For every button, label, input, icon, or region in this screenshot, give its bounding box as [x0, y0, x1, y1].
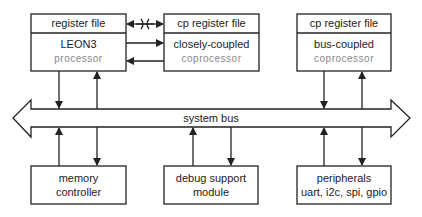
cc-subtitle: coprocessor [164, 52, 259, 65]
bc-subtitle: coprocessor [297, 52, 391, 65]
leon3-subtitle: processor [31, 52, 126, 65]
peripherals-line1: peripherals [297, 172, 391, 185]
bc-title: bus-coupled [297, 38, 391, 51]
leon3-title: LEON3 [31, 38, 126, 51]
cc-title: closely-coupled [164, 38, 259, 51]
bc-regfile-label: cp register file [297, 17, 391, 30]
system-bus-label: system bus [161, 112, 261, 125]
peripherals-line2: uart, i2c, spi, gpio [297, 186, 391, 199]
memory-controller-line2: controller [31, 186, 126, 199]
debug-support-line1: debug support [164, 172, 258, 185]
leon3-regfile-label: register file [31, 17, 126, 30]
cc-regfile-label: cp register file [164, 17, 259, 30]
debug-support-line2: module [164, 186, 258, 199]
memory-controller-line1: memory [31, 172, 126, 185]
